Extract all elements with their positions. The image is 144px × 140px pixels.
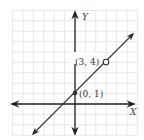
line-y-equals-x-plus-1	[33, 34, 133, 134]
point-0-1-closed	[73, 91, 78, 96]
label-point-3-4: (3, 4)	[75, 57, 99, 67]
y-axis-label: Y	[82, 12, 89, 22]
point-3-4-open	[103, 59, 109, 65]
label-point-0-1: (0, 1)	[79, 89, 103, 99]
coordinate-graph: Y X (0, 1) (3, 4)	[0, 0, 144, 140]
x-axis-label: X	[129, 107, 137, 117]
